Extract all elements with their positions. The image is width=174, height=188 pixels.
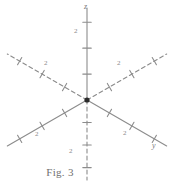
tick-mark-upper-right-3 [152,57,156,64]
tick-mark-upper-right-2 [130,70,134,77]
tick-mark-upper-right-1 [107,83,111,90]
tick-label-upper-right: 2 [117,60,121,67]
tick-label-z-down: 2 [69,148,73,155]
tick-mark-lower-left-3 [18,135,22,142]
tick-mark-lower-left-2 [40,122,44,129]
figure-caption: Fig. 3 [0,166,120,178]
tick-label-lower-right: 2 [123,130,127,137]
origin-point [84,97,89,102]
tick-mark-lower-right-2 [130,122,134,129]
tick-mark-upper-left-1 [62,83,66,90]
tick-mark-lower-right-1 [107,109,111,116]
tick-label-lower-left: 2 [35,131,39,138]
axis-diagram [0,0,174,188]
tick-mark-upper-left-2 [40,70,44,77]
z-axis-label: z [84,3,87,11]
tick-mark-lower-left-1 [62,109,66,116]
y-axis-label: y [152,142,156,150]
figure-3-container: zy222222 Fig. 3 [0,0,174,188]
tick-mark-upper-left-3 [18,57,22,64]
tick-label-z-up: 2 [74,28,78,35]
axis-rays [7,8,166,180]
tick-label-upper-left: 2 [44,60,48,67]
